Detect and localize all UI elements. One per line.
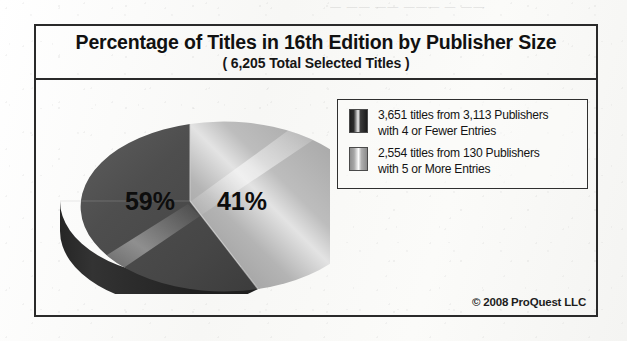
- legend-swatch-light-icon: [349, 147, 368, 171]
- plot-area: 59% 41% 3,651 titles from 3,113 Publishe…: [36, 80, 596, 315]
- legend-item: 3,651 titles from 3,113 Publishers with …: [349, 108, 579, 144]
- legend-label-dark-line2: with 4 or Fewer Entries: [378, 124, 496, 138]
- pie-label-dark: 59%: [125, 187, 175, 215]
- legend-label-dark: 3,651 titles from 3,113 Publishers with …: [378, 108, 548, 139]
- legend-label-light-line1: 2,554 titles from 130 Publishers: [378, 146, 540, 160]
- legend: 3,651 titles from 3,113 Publishers with …: [337, 99, 588, 189]
- legend-label-light-line2: with 5 or More Entries: [378, 162, 490, 176]
- copyright-notice: © 2008 ProQuest LLC: [472, 296, 586, 308]
- legend-label-light: 2,554 titles from 130 Publishers with 5 …: [378, 146, 540, 177]
- title-band: Percentage of Titles in 16th Edition by …: [36, 26, 596, 80]
- legend-label-dark-line1: 3,651 titles from 3,113 Publishers: [378, 108, 548, 122]
- legend-swatch-dark-icon: [349, 109, 368, 133]
- pie-label-light: 41%: [217, 187, 267, 215]
- chart-subtitle: ( 6,205 Total Selected Titles ): [36, 53, 596, 71]
- legend-item: 2,554 titles from 130 Publishers with 5 …: [349, 146, 579, 182]
- pie-chart-svg: 59% 41%: [50, 104, 330, 294]
- page-bleed-through-text: — —— —— ——— — ——: [330, 1, 610, 15]
- page-title: Percentage of Titles in 16th Edition by …: [36, 26, 596, 53]
- figure-frame: Percentage of Titles in 16th Edition by …: [34, 24, 598, 317]
- pie-chart: 59% 41%: [50, 104, 330, 294]
